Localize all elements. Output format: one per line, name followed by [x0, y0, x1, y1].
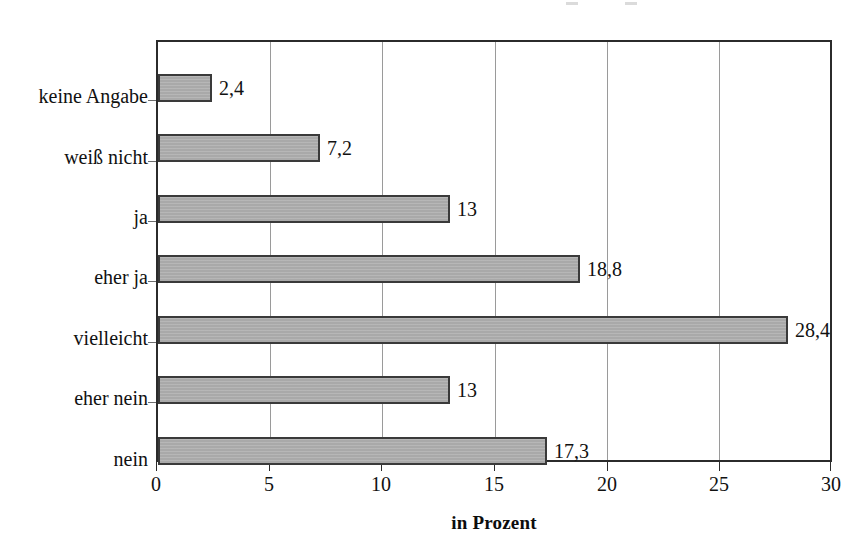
x-axis-tick-20 — [607, 462, 608, 471]
bar-value-eher-ja: 18,8 — [587, 259, 622, 279]
y-axis-label-eher-ja: eher ja — [0, 267, 148, 287]
x-axis-tick-label-10: 10 — [371, 474, 391, 494]
y-axis-label-eher-nein: eher nein — [0, 388, 148, 408]
bar-value-weiss-nicht: 7,2 — [327, 138, 352, 158]
x-axis-tick-label-0: 0 — [151, 474, 161, 494]
x-axis-tick-label-5: 5 — [264, 474, 274, 494]
bar-row: 7,2 — [158, 118, 830, 178]
chart-screenshot: keine Angabe weiß nicht ja eher ja viell… — [0, 0, 863, 541]
y-axis-label-vielleicht: vielleicht — [0, 328, 148, 348]
bar-value-eher-nein: 13 — [457, 380, 477, 400]
scan-artifact-mark — [625, 2, 637, 5]
x-axis-tick-30 — [830, 462, 831, 471]
x-axis-tick-0 — [156, 462, 157, 471]
scan-artifact-mark — [566, 2, 578, 5]
x-axis-tick-label-30: 30 — [821, 474, 841, 494]
x-axis-title: in Prozent — [156, 512, 832, 534]
bar-vielleicht[interactable] — [158, 316, 788, 344]
bar-row: 13 — [158, 360, 830, 420]
bar-value-vielleicht: 28,4 — [795, 320, 830, 340]
x-axis-tick-label-15: 15 — [484, 474, 504, 494]
x-axis-tick-label-20: 20 — [597, 474, 617, 494]
bar-row: 18,8 — [158, 239, 830, 299]
bar-row: 2,4 — [158, 58, 830, 118]
y-axis-label-nein: nein — [0, 449, 148, 469]
bar-value-nein: 17,3 — [554, 441, 589, 461]
x-axis-tick-label-25: 25 — [709, 474, 729, 494]
y-axis-category-labels: keine Angabe weiß nicht ja eher ja viell… — [0, 40, 148, 462]
y-axis-label-weiss-nicht: weiß nicht — [0, 147, 148, 167]
plot-area: 2,4 7,2 13 18,8 28,4 13 17,3 — [156, 40, 832, 462]
bar-eher-nein[interactable] — [158, 376, 450, 404]
y-axis-label-ja: ja — [0, 207, 148, 227]
bar-keine-angabe[interactable] — [158, 74, 212, 102]
bar-ja[interactable] — [158, 195, 450, 223]
bar-eher-ja[interactable] — [158, 255, 580, 283]
x-axis-tick-25 — [719, 462, 720, 471]
bar-row: 13 — [158, 179, 830, 239]
bar-row: 28,4 — [158, 300, 830, 360]
bar-value-keine-angabe: 2,4 — [219, 78, 244, 98]
y-axis-label-keine-angabe: keine Angabe — [0, 86, 148, 106]
bar-nein[interactable] — [158, 437, 547, 465]
bar-weiss-nicht[interactable] — [158, 134, 320, 162]
bar-value-ja: 13 — [457, 199, 477, 219]
